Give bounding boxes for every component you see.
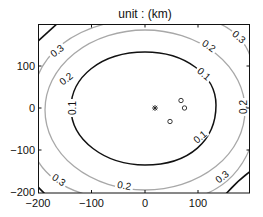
x-axis-labels: −200 −100 0 100 <box>26 197 208 209</box>
y-tick-label: 100 <box>17 60 35 72</box>
asterisk-marker <box>152 105 158 111</box>
x-tick-label: −100 <box>79 197 104 209</box>
circle-marker <box>179 98 183 102</box>
plot-area: 0.3 0.2 0.1 0.2 0.3 0.1 0.2 0.1 0.3 0.3 … <box>36 22 252 195</box>
y-tick-label: −100 <box>10 144 35 156</box>
chart-title: unit : (km) <box>118 7 171 21</box>
contour-0.1 <box>71 52 216 165</box>
circle-marker <box>182 106 186 110</box>
x-tick-label: −200 <box>26 197 51 209</box>
x-tick-label: 0 <box>142 197 148 209</box>
circle-marker <box>168 119 172 123</box>
contour-0.4-top-left <box>36 22 59 43</box>
label-0.2-right: 0.2 <box>238 100 249 114</box>
markers <box>152 98 187 123</box>
y-tick-label: −200 <box>10 186 35 198</box>
contour-0.3-bottom-right <box>203 143 252 195</box>
contour-chart: unit : (km) 0.3 0.2 0.1 0.2 0.3 0.1 <box>0 0 263 217</box>
contour-0.3-top-right <box>216 22 252 62</box>
x-tick-label: 100 <box>189 197 207 209</box>
y-axis-labels: 100 0 −100 −200 <box>10 60 35 198</box>
y-tick-label: 0 <box>29 102 35 114</box>
label-0.2-bottom: 0.2 <box>116 179 132 192</box>
label-0.1-left: 0.1 <box>67 101 78 115</box>
